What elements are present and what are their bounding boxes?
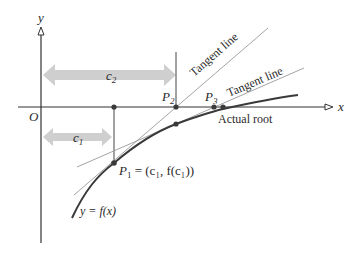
p2-label: P2 xyxy=(161,89,175,106)
f-c2-point xyxy=(173,121,178,126)
c1-interval-arrow: c1 xyxy=(43,128,112,147)
p1-label: P1 = (c₁, f(c₁)) xyxy=(118,163,194,180)
actual-root-point xyxy=(220,104,225,109)
actual-root-label: Actual root xyxy=(218,112,273,126)
p1-point xyxy=(111,160,117,166)
tangent-line-label-2: Tangent line xyxy=(225,64,285,100)
tangent-line-label-1: Tangent line xyxy=(187,30,241,80)
p3-label: P3 xyxy=(204,89,218,106)
c1-label: c1 xyxy=(73,130,83,147)
y-axis-arrow-icon xyxy=(38,27,44,35)
x-axis-label: x xyxy=(337,99,344,114)
x-axis-arrow-icon xyxy=(325,104,333,110)
c1-axis-point xyxy=(111,104,116,109)
origin-label: O xyxy=(29,109,39,124)
c2-interval-arrow: c2 xyxy=(43,64,176,86)
curve-label: y = f(x) xyxy=(79,204,116,218)
newton-method-diagram: y x O c2 c1 P2 P3 P1 = (c₁, f(c₁)) Tange… xyxy=(0,0,345,255)
y-axis-label: y xyxy=(36,10,44,25)
